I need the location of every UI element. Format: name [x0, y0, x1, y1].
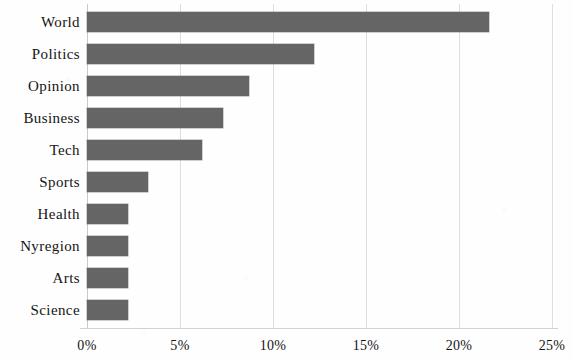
- bar-row: [87, 300, 552, 320]
- x-tick-10pct: 10%: [260, 336, 287, 356]
- bar-row: [87, 236, 552, 256]
- bar-row: [87, 140, 552, 160]
- x-tick-15pct: 15%: [353, 336, 380, 356]
- y-axis-label-opinion: Opinion: [0, 76, 80, 96]
- plot-area: [87, 4, 552, 328]
- y-axis-label-business: Business: [0, 108, 80, 128]
- y-axis-labels: WorldPoliticsOpinionBusinessTechSportsHe…: [0, 4, 80, 328]
- y-axis-label-tech: Tech: [0, 140, 80, 160]
- y-axis-label-politics: Politics: [0, 44, 80, 64]
- bar-tech: [87, 140, 202, 160]
- x-tick-25pct: 25%: [539, 336, 566, 356]
- bar-row: [87, 108, 552, 128]
- x-tick-20pct: 20%: [446, 336, 473, 356]
- bar-sports: [87, 172, 148, 192]
- bar-row: [87, 76, 552, 96]
- bar-row: [87, 268, 552, 288]
- bar-politics: [87, 44, 314, 64]
- x-tick-5pct: 5%: [170, 336, 189, 356]
- x-axis-tick-labels: 0%5%10%15%20%25%: [87, 336, 552, 358]
- y-axis-label-sports: Sports: [0, 172, 80, 192]
- gridline-25pct: [552, 4, 553, 328]
- bar-business: [87, 108, 223, 128]
- bar-science: [87, 300, 128, 320]
- bar-row: [87, 172, 552, 192]
- bar-health: [87, 204, 128, 224]
- bar-row: [87, 204, 552, 224]
- y-axis-label-arts: Arts: [0, 268, 80, 288]
- y-axis-label-science: Science: [0, 300, 80, 320]
- x-axis-baseline: [80, 328, 558, 329]
- y-axis-label-health: Health: [0, 204, 80, 224]
- bar-chart: WorldPoliticsOpinionBusinessTechSportsHe…: [0, 0, 573, 362]
- bar-opinion: [87, 76, 249, 96]
- bar-nyregion: [87, 236, 128, 256]
- bar-row: [87, 12, 552, 32]
- x-tick-0pct: 0%: [77, 336, 96, 356]
- bar-arts: [87, 268, 128, 288]
- y-axis-label-nyregion: Nyregion: [0, 236, 80, 256]
- bar-row: [87, 44, 552, 64]
- y-axis-label-world: World: [0, 12, 80, 32]
- bar-world: [87, 12, 489, 32]
